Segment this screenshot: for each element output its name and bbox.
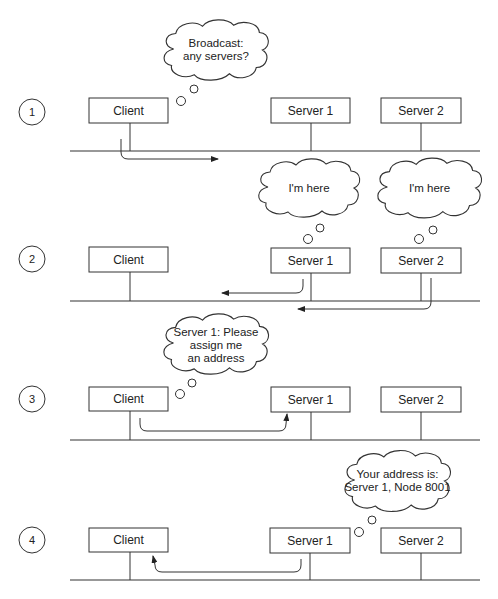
bubble-line: any servers?	[158, 50, 274, 63]
step-2-number: 2	[19, 246, 45, 272]
thought-bubble-dot	[415, 235, 424, 244]
client-label: Client	[89, 98, 168, 123]
bubble-line: an address	[159, 352, 273, 365]
request-arrow	[140, 414, 287, 431]
server2-label: Server 2	[381, 528, 461, 553]
step-2-server2-bubble-text: I'm here	[373, 182, 486, 195]
bubble-line: I'm here	[373, 182, 486, 195]
server2-label: Server 2	[381, 387, 461, 412]
server2-label: Server 2	[381, 98, 461, 123]
step-3-bubble-text: Server 1: Please assign me an address	[159, 326, 273, 365]
bubble-line: assign me	[159, 339, 273, 352]
thought-bubble-dot	[355, 528, 364, 537]
step-4-number: 4	[19, 527, 45, 553]
bubble-line: Server 1, Node 8001	[340, 481, 455, 494]
bubble-line: Server 1: Please	[159, 326, 273, 339]
broadcast-arrow	[121, 139, 218, 159]
thought-bubble-dot	[176, 390, 185, 399]
step-2-server1-bubble-text: I'm here	[254, 182, 364, 195]
server1-label: Server 1	[271, 98, 350, 123]
thought-bubble-dot	[188, 379, 196, 387]
server2-label: Server 2	[381, 248, 461, 273]
server1-label: Server 1	[271, 248, 350, 273]
client-label: Client	[89, 528, 168, 552]
bubble-line: Broadcast:	[158, 37, 274, 50]
step-1-number: 1	[19, 99, 45, 125]
bubble-line: Your address is:	[340, 468, 455, 481]
client-label: Client	[89, 247, 168, 272]
thought-bubble-dot	[429, 226, 437, 234]
step-1-bubble-text: Broadcast: any servers?	[158, 37, 274, 63]
server1-reply-arrow	[222, 279, 303, 293]
client-label: Client	[89, 387, 168, 411]
step-3-number: 3	[19, 386, 45, 412]
network-address-assignment-diagram	[0, 0, 498, 599]
thought-bubble-dot	[316, 224, 324, 232]
step-4-bubble-text: Your address is: Server 1, Node 8001	[340, 468, 455, 494]
server1-label: Server 1	[271, 387, 350, 412]
server1-label: Server 1	[270, 528, 350, 553]
thought-bubble-dot	[304, 235, 313, 244]
server2-reply-arrow	[298, 278, 431, 309]
thought-bubble-dot	[368, 516, 376, 524]
thought-bubble-dot	[177, 97, 186, 106]
thought-bubble-dot	[190, 85, 198, 93]
step-2	[19, 158, 482, 309]
bubble-line: I'm here	[254, 182, 364, 195]
assignment-arrow	[153, 556, 301, 572]
